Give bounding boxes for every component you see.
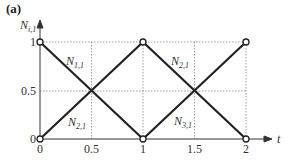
svg-text:0.5: 0.5 <box>21 84 36 98</box>
svg-text:1: 1 <box>140 142 146 156</box>
y-ticks: 0 0.5 1 <box>21 35 36 146</box>
label-n21-left: N2,1 <box>67 115 86 131</box>
x-ticks: 0 0.5 1 1.5 2 <box>37 142 249 156</box>
label-n11: N1,1 <box>65 54 84 70</box>
x-axis-label: t <box>277 132 281 146</box>
y-axis-arrow-icon <box>37 20 43 28</box>
svg-text:0: 0 <box>30 132 36 146</box>
panel-label: (a) <box>6 1 21 16</box>
curve-labels: N1,1 N2,1 N2,1 N3,1 <box>65 54 192 131</box>
y-axis-label: Ni,1 <box>19 18 36 34</box>
svg-text:0.5: 0.5 <box>84 142 99 156</box>
label-n21-right: N2,1 <box>170 54 189 70</box>
svg-text:1: 1 <box>30 35 36 49</box>
basis-function-chart: (a) Ni,1 t 0 0.5 1 0 0.5 1 1.5 2 N1,1 N2… <box>0 0 288 160</box>
svg-text:0: 0 <box>37 142 43 156</box>
x-axis-arrow-icon <box>264 136 272 142</box>
label-n31: N3,1 <box>173 114 192 130</box>
svg-text:2: 2 <box>243 142 249 156</box>
svg-text:1.5: 1.5 <box>187 142 202 156</box>
